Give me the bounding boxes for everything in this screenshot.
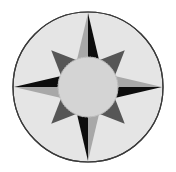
compass-rose-figure — [0, 0, 176, 172]
compass-rose-graphic — [0, 0, 176, 172]
